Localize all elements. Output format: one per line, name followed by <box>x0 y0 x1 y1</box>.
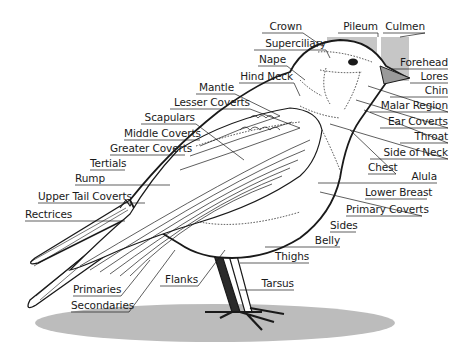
label-middle-coverts: Middle Coverts <box>124 127 200 139</box>
bird-illustration <box>0 0 457 353</box>
label-upper-tail-coverts: Upper Tail Coverts <box>38 190 128 202</box>
label-throat: Throat <box>400 130 448 142</box>
label-thighs: Thighs <box>275 250 309 262</box>
label-tarsus: Tarsus <box>258 277 294 289</box>
label-alula: Alula <box>405 170 437 182</box>
label-superciliary: Superciliary <box>254 37 326 49</box>
label-primaries: Primaries <box>73 283 121 295</box>
label-sides: Sides <box>330 219 356 231</box>
label-side-of-neck: Side of Neck <box>370 146 448 158</box>
label-scapulars: Scapulars <box>141 111 195 123</box>
label-flanks: Flanks <box>160 273 198 285</box>
eye <box>348 59 358 66</box>
label-lores: Lores <box>410 70 448 82</box>
label-pileum: Pileum <box>338 20 378 32</box>
bird-topography-diagram: Crown Superciliary Nape Hind Neck Mantle… <box>0 0 457 353</box>
label-chest: Chest <box>368 161 396 173</box>
label-secondaries: Secondaries <box>71 299 129 311</box>
label-chin: Chin <box>415 84 448 96</box>
label-ear-coverts: Ear Coverts <box>380 115 448 127</box>
label-belly: Belly <box>310 234 340 246</box>
label-crown: Crown <box>262 20 302 32</box>
label-nape: Nape <box>258 53 286 65</box>
label-rectrices: Rectrices <box>25 208 70 220</box>
label-forehead: Forehead <box>392 56 448 68</box>
label-lower-breast: Lower Breast <box>365 186 427 198</box>
label-lesser-coverts: Lesser Coverts <box>170 96 250 108</box>
label-hind-neck: Hind Neck <box>239 70 293 82</box>
label-mantle: Mantle <box>196 81 234 93</box>
label-greater-coverts: Greater Coverts <box>110 142 184 154</box>
label-primary-coverts: Primary Coverts <box>346 203 422 215</box>
label-tertials: Tertials <box>90 157 124 169</box>
label-culmen: Culmen <box>383 20 425 32</box>
label-rump: Rump <box>75 172 105 184</box>
label-malar-region: Malar Region <box>370 99 448 111</box>
